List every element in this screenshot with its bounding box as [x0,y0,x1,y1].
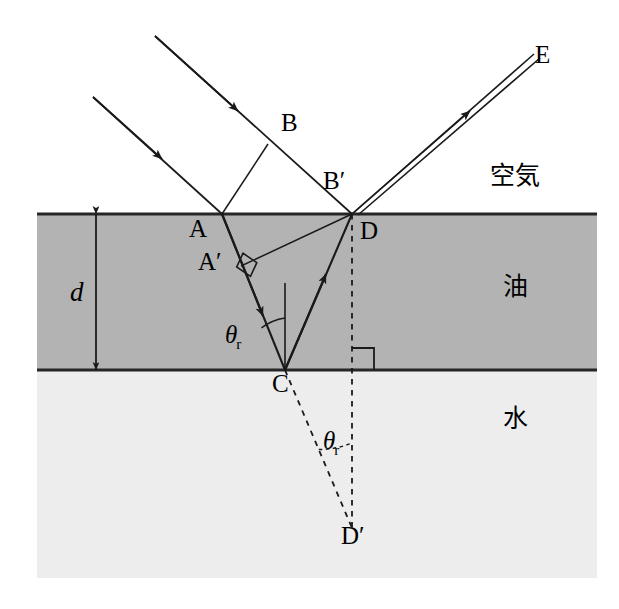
theta-subscript-water: r [334,442,339,458]
label-medium-oil: 油 [503,274,528,299]
exit-ray-upper-arrow [352,111,470,214]
label-theta-r-water: θr [323,428,339,458]
label-medium-water: 水 [503,406,528,431]
label-point-d: D [360,218,378,243]
label-point-a: A [189,216,207,241]
incident-ray-lower-arrow [93,97,162,159]
label-medium-air: 空気 [490,163,540,188]
diagram-canvas [0,0,619,609]
label-theta-r-oil: θr [225,322,241,352]
optics-diagram: A A′ B B′ C D D′ E 空気 油 水 d θr θr [0,0,619,609]
label-point-e: E [535,42,550,67]
label-point-d-prime: D′ [341,523,365,548]
label-point-a-prime: A′ [198,249,222,274]
theta-subscript-oil: r [236,336,241,352]
label-point-b: B [281,110,298,135]
exit-ray-lower [358,58,540,215]
label-point-c: C [272,371,289,396]
wavefront-AB [222,144,268,214]
label-thickness-d: d [70,279,84,306]
water-region [37,370,597,578]
label-point-b-prime: B′ [323,168,345,193]
incident-ray-upper-arrow [155,36,238,111]
